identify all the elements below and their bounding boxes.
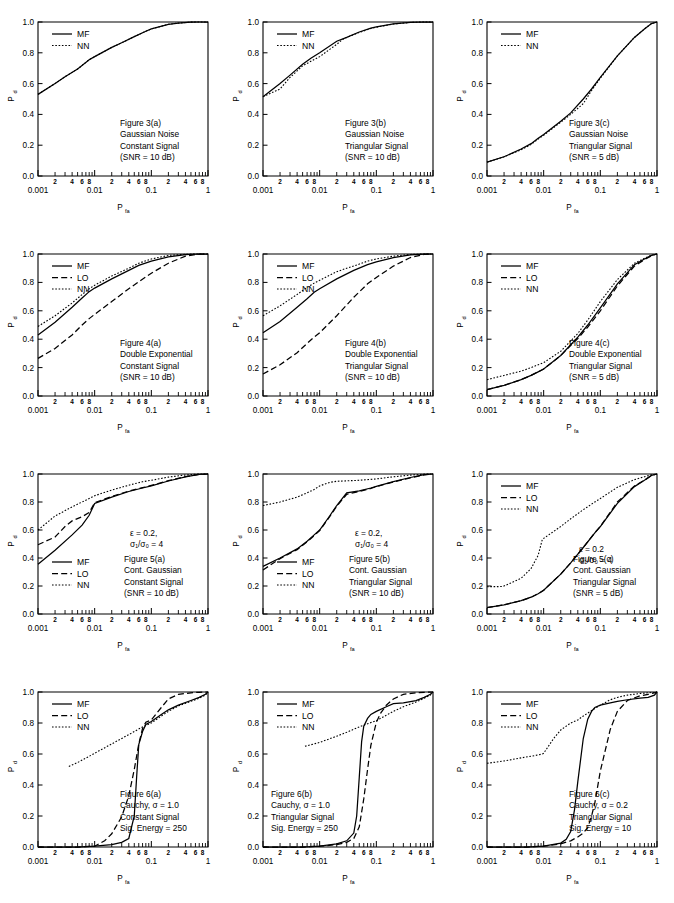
x-tick-minor-label: 2 <box>53 616 57 623</box>
caption-line: Double Exponential <box>120 349 193 359</box>
annotation-line: σ₁/σ₀ = 4 <box>579 555 613 565</box>
caption-line: Figure 5(b) <box>349 554 390 564</box>
x-tick-minor-label: 4 <box>520 398 524 405</box>
x-tick-label: 0.001 <box>28 406 49 415</box>
x-tick-minor-label: 2 <box>559 398 563 405</box>
svg-text:P: P <box>342 423 348 432</box>
x-tick-minor-label: 4 <box>576 398 580 405</box>
legend-label-nn: NN <box>77 722 89 732</box>
caption-line: Figure 6(b) <box>271 789 312 799</box>
svg-text:P: P <box>342 203 348 212</box>
x-tick-minor-label: 6 <box>418 616 422 623</box>
y-tick-label: 1.0 <box>472 688 484 697</box>
x-tick-minor-label: 2 <box>278 178 282 185</box>
x-tick-minor-label: 8 <box>425 398 429 405</box>
x-tick-minor-label: 4 <box>295 398 299 405</box>
annotation-line: ε = 0.2, <box>130 528 157 538</box>
x-tick-label: 0.1 <box>146 624 158 633</box>
x-tick-minor-label: 2 <box>616 398 620 405</box>
caption-line: Sig. Energy = 10 <box>569 823 631 833</box>
panel-annotation: ε = 0.2,σ₁/σ₀ = 4 <box>130 528 164 549</box>
x-tick-label: 0.1 <box>595 624 607 633</box>
legend: MFLONN <box>277 261 314 294</box>
x-tick-minor-label: 8 <box>144 398 148 405</box>
legend-label-mf: MF <box>302 557 314 567</box>
curve-nn <box>263 254 433 316</box>
x-tick-label: 1 <box>206 186 211 195</box>
x-tick-label: 1 <box>655 857 660 866</box>
x-tick-minor-label: 4 <box>633 398 637 405</box>
x-tick-minor-label: 6 <box>137 178 141 185</box>
x-tick-label: 1 <box>655 186 660 195</box>
y-tick-label: 0.0 <box>472 610 484 619</box>
x-tick-minor-label: 4 <box>184 178 188 185</box>
y-tick-label: 0.0 <box>247 843 259 852</box>
x-tick-minor-label: 2 <box>278 398 282 405</box>
svg-text:P: P <box>567 641 573 650</box>
x-tick-minor-label: 4 <box>352 398 356 405</box>
y-tick-label: 0.6 <box>472 750 484 759</box>
legend: MFLONN <box>501 261 538 294</box>
y-tick-label: 0.2 <box>23 582 35 591</box>
x-tick-label: 1 <box>206 624 211 633</box>
legend-label-lo: LO <box>526 711 538 721</box>
x-tick-minor-label: 8 <box>144 616 148 623</box>
annotation-line: σ₁/σ₀ = 4 <box>355 539 389 549</box>
legend-label-nn: NN <box>526 504 538 514</box>
panel-caption: Figure 5(b)Cont. GaussianTriangular Sign… <box>349 554 412 598</box>
y-tick-label: 1.0 <box>23 688 35 697</box>
x-tick-minor-label: 2 <box>391 178 395 185</box>
x-tick-label: 0.01 <box>311 186 327 195</box>
x-axis-title: Pfa <box>117 203 130 214</box>
x-axis-title: Pfa <box>342 423 355 434</box>
x-tick-minor-label: 2 <box>503 616 507 623</box>
x-tick-minor-label: 6 <box>418 849 422 856</box>
svg-text:d: d <box>461 535 467 538</box>
y-tick-label: 0.6 <box>472 80 484 89</box>
svg-text:P: P <box>456 96 465 102</box>
x-tick-minor-label: 2 <box>503 849 507 856</box>
x-tick-minor-label: 8 <box>369 616 373 623</box>
x-tick-minor-label: 2 <box>616 616 620 623</box>
x-tick-minor-label: 6 <box>80 616 84 623</box>
x-tick-label: 0.1 <box>595 186 607 195</box>
panel-cell-fig6a: 0.00.20.40.60.81.00.0010.010.11246824682… <box>0 670 225 903</box>
panel-caption: Figure 4(c)Double ExponentialTriangular … <box>569 338 642 382</box>
y-tick-label: 0.6 <box>23 80 35 89</box>
x-tick-minor-label: 2 <box>559 178 563 185</box>
y-tick-label: 1.0 <box>247 250 259 259</box>
x-axis-title: Pfa <box>342 641 355 652</box>
x-tick-label: 0.001 <box>477 186 498 195</box>
caption-line: (SNR = 10 dB) <box>345 372 400 382</box>
curve-nn <box>305 692 433 746</box>
caption-line: Triangular Signal <box>345 141 408 151</box>
x-tick-label: 1 <box>430 624 435 633</box>
y-tick-label: 0.4 <box>247 335 259 344</box>
caption-line: (SNR = 5 dB) <box>569 372 619 382</box>
caption-line: Figure 4(a) <box>120 338 161 348</box>
svg-text:P: P <box>232 541 241 547</box>
y-tick-label: 0.6 <box>23 526 35 535</box>
panel-cell-fig6c: 0.00.20.40.60.81.00.0010.010.11246824682… <box>449 670 674 903</box>
svg-text:d: d <box>461 761 467 764</box>
x-tick-minor-label: 4 <box>408 849 412 856</box>
x-tick-minor-label: 2 <box>335 178 339 185</box>
x-tick-label: 0.001 <box>28 624 49 633</box>
x-tick-minor-label: 2 <box>335 616 339 623</box>
panel-fig6b: 0.00.20.40.60.81.00.0010.010.11246824682… <box>225 670 449 903</box>
y-tick-label: 1.0 <box>23 470 35 479</box>
y-tick-label: 0.2 <box>472 812 484 821</box>
y-axis-title: Pd <box>456 761 467 772</box>
y-tick-label: 0.0 <box>23 392 35 401</box>
x-tick-label: 0.1 <box>595 857 607 866</box>
x-tick-minor-label: 8 <box>650 616 654 623</box>
x-tick-minor-label: 2 <box>110 849 114 856</box>
caption-line: (SNR = 10 dB) <box>120 372 175 382</box>
x-tick-minor-label: 6 <box>194 398 198 405</box>
plot-frame <box>487 474 657 614</box>
y-tick-label: 1.0 <box>472 18 484 27</box>
x-tick-minor-label: 4 <box>70 398 74 405</box>
y-axis-title: Pd <box>7 316 18 327</box>
svg-text:P: P <box>567 423 573 432</box>
x-tick-minor-label: 4 <box>352 178 356 185</box>
